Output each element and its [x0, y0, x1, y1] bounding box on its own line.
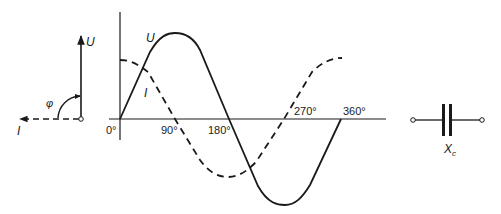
capacitor-symbol: Xc	[411, 104, 485, 158]
current-curve	[120, 58, 342, 177]
x-tick-90: 90°	[161, 124, 178, 136]
current-curve-label: I	[144, 86, 148, 100]
reactance-label: Xc	[443, 142, 456, 158]
capacitor-plate-right	[449, 104, 452, 136]
capacitor-plate-left	[442, 104, 445, 136]
x-tick-360: 360°	[343, 105, 366, 117]
phasor-current-label: I	[17, 124, 21, 138]
terminal-right-icon	[480, 118, 485, 123]
x-tick-0: 0°	[106, 124, 117, 136]
arc-arrowhead-icon	[75, 94, 81, 99]
x-tick-180: 180°	[208, 124, 231, 136]
diagram-canvas: U I φ U I 0° 90° 180° 270° 360° Xc	[0, 0, 501, 214]
voltage-curve-label: U	[146, 31, 155, 45]
phase-angle-label: φ	[46, 97, 53, 109]
phase-angle-arc-icon	[58, 96, 80, 118]
terminal-left-icon	[411, 118, 416, 123]
phasor-diagram: U I φ	[17, 35, 95, 138]
x-tick-270: 270°	[294, 105, 317, 117]
phasor-origin	[79, 117, 84, 122]
phasor-voltage-label: U	[86, 35, 95, 49]
waveform-chart: U I 0° 90° 180° 270° 360°	[106, 12, 386, 205]
